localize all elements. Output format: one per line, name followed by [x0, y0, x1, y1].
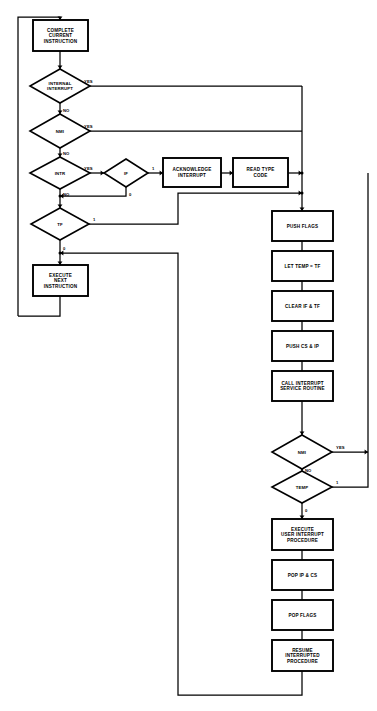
- node-label-temp-check: TEMP: [296, 485, 309, 490]
- node-tf-flag: TF: [31, 208, 89, 240]
- node-clear-if-tf: CLEAR IF & TF: [272, 291, 333, 321]
- node-label-intr: INTR: [55, 171, 66, 176]
- node-nmi-top: NMI: [30, 114, 90, 148]
- node-push-flags: PUSH FLAGS: [272, 211, 333, 241]
- node-label-nmi-top: NMI: [56, 129, 64, 134]
- node-call-interrupt-service-routine: CALL INTERRUPTSERVICE ROUTINE: [272, 371, 333, 401]
- node-label-pop-ip-cs: POP IP & CS: [288, 573, 317, 578]
- node-execute-next-instruction: EXECUTENEXTINSTRUCTION: [33, 265, 88, 296]
- node-if-flag: IF: [104, 159, 148, 187]
- node-execute-user-interrupt-procedure: EXECUTEUSER INTERRUPTPROCEDURE: [272, 519, 333, 550]
- node-complete-current-instruction: COMPLETECURRENTINSTRUCTION: [33, 20, 88, 51]
- junction-tf-zero-junction: [59, 252, 62, 255]
- node-label-let-temp-tf: LET TEMP = TF: [285, 264, 321, 269]
- node-pop-ip-cs: POP IP & CS: [272, 560, 333, 590]
- edge-label-internal-interrupt-no: NO: [63, 108, 70, 113]
- junction-intr-no-junction: [59, 195, 62, 198]
- edge-label-nmi-check-no: NO: [305, 468, 312, 473]
- connector-resume-loop-back: [60, 253, 302, 695]
- node-label-if-flag: IF: [124, 171, 128, 176]
- node-label-acknowledge-interrupt: ACKNOWLEDGEINTERRUPT: [173, 167, 212, 177]
- flowchart-canvas: COMPLETECURRENTINSTRUCTIONINTERNALINTERR…: [0, 0, 377, 711]
- edge-label-nmi-check-yes: YES: [336, 445, 345, 450]
- node-temp-check: TEMP: [272, 471, 332, 503]
- connector-execute-next-loop-out: [18, 296, 60, 316]
- edge-label-if-zero: 0: [129, 192, 132, 197]
- edge-label-nmi-top-yes: YES: [84, 124, 93, 129]
- edge-label-tf-zero: 0: [63, 246, 66, 251]
- node-label-internal-interrupt: INTERNALINTERRUPT: [47, 81, 73, 91]
- connector-temp-one-right-up: [332, 173, 368, 487]
- node-internal-interrupt: INTERNALINTERRUPT: [30, 69, 90, 103]
- edge-label-nmi-top-no: NO: [63, 151, 70, 156]
- node-label-call-interrupt-service-routine: CALL INTERRUPTSERVICE ROUTINE: [280, 381, 325, 391]
- node-label-tf-flag: TF: [57, 222, 63, 227]
- connector-if-zero-back-to-intr-no: [60, 187, 126, 196]
- node-push-cs-ip: PUSH CS & IP: [272, 331, 333, 361]
- edge-label-internal-interrupt-yes: YES: [84, 79, 93, 84]
- interrupt-flowchart-diagram: COMPLETECURRENTINSTRUCTIONINTERNALINTERR…: [0, 0, 377, 711]
- node-label-clear-if-tf: CLEAR IF & TF: [285, 304, 320, 309]
- edge-label-if-one: 1: [152, 166, 155, 171]
- edge-label-temp-zero: 0: [305, 508, 308, 513]
- node-read-type-code: READ TYPECODE: [233, 158, 288, 187]
- node-intr: INTR: [30, 157, 90, 189]
- node-let-temp-tf: LET TEMP = TF: [272, 251, 333, 281]
- node-acknowledge-interrupt: ACKNOWLEDGEINTERRUPT: [163, 158, 221, 187]
- node-label-pop-flags: POP FLAGS: [288, 613, 316, 618]
- junction-merge-junction-tf: [301, 192, 304, 195]
- node-layer: COMPLETECURRENTINSTRUCTIONINTERNALINTERR…: [30, 20, 333, 671]
- node-resume-interrupted-procedure: RESUMEINTERRUPTEDPROCEDURE: [272, 640, 333, 671]
- junction-merge-junction-read: [301, 172, 304, 175]
- node-label-push-cs-ip: PUSH CS & IP: [286, 344, 319, 349]
- connector-tf-one-to-merge: [89, 193, 302, 224]
- edge-label-intr-no: NO: [63, 192, 70, 197]
- node-label-push-flags: PUSH FLAGS: [287, 224, 318, 229]
- node-label-nmi-check: NMI: [298, 450, 306, 455]
- edge-label-tf-one: 1: [93, 217, 96, 222]
- node-pop-flags: POP FLAGS: [272, 600, 333, 630]
- node-nmi-check: NMI: [272, 435, 332, 469]
- edge-label-temp-one: 1: [336, 480, 339, 485]
- edge-label-intr-yes: YES: [84, 166, 93, 171]
